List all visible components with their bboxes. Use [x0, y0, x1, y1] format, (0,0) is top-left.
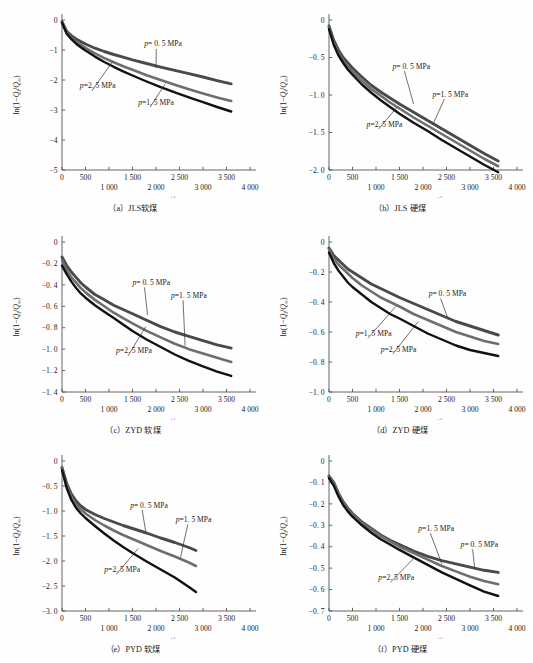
svg-text:−0. 6: −0. 6 — [309, 585, 325, 594]
svg-text:2 000: 2 000 — [147, 624, 164, 633]
svg-text:3 500: 3 500 — [218, 614, 235, 623]
annotation-label-b-0-5: p= 0. 5 MPa — [391, 62, 430, 71]
svg-text:500: 500 — [347, 395, 359, 404]
svg-text:1 000: 1 000 — [100, 405, 117, 414]
y-axis-label: ln(1−Qt/Q∞) — [12, 516, 22, 556]
plot-area-d: 0−0. 2−0. 4−0. 6−0. 8−1. 005001 5002 500… — [267, 224, 533, 420]
svg-text:3 000: 3 000 — [194, 405, 211, 414]
svg-text:2 500: 2 500 — [438, 395, 455, 404]
svg-text:−1. 0: −1. 0 — [309, 388, 325, 397]
svg-text:1 000: 1 000 — [100, 183, 117, 192]
svg-text:−0. 8: −0. 8 — [42, 323, 58, 332]
panel-caption-f: （f）PYD 硬煤 — [267, 642, 533, 654]
annotation-label-e-0-5: p= 0. 5 MPa — [129, 501, 168, 510]
y-axis-ticks-a: 0−1−2−3−4−5 — [49, 16, 65, 175]
svg-text:−0. 6: −0. 6 — [309, 328, 325, 337]
svg-text:3 000: 3 000 — [461, 183, 478, 192]
y-axis-label: ln(1−Qt/Q∞) — [279, 75, 289, 115]
svg-text:3 000: 3 000 — [461, 405, 478, 414]
svg-text:0: 0 — [321, 457, 325, 466]
svg-text:−0. 5: −0. 5 — [309, 53, 325, 62]
svg-text:2 500: 2 500 — [171, 395, 188, 404]
annotation-label-e-1-5: p=1. 5 MPa — [175, 515, 212, 524]
svg-text:500: 500 — [80, 395, 92, 404]
svg-text:4 000: 4 000 — [508, 624, 525, 633]
svg-text:−2: −2 — [49, 76, 57, 85]
plot-area-b: 0−0. 5−1. 0−1. 5−2. 005001 5002 5003 500… — [267, 2, 533, 198]
svg-text:−0. 6: −0. 6 — [42, 302, 58, 311]
axes-d — [329, 236, 523, 392]
svg-text:1 500: 1 500 — [124, 173, 141, 182]
svg-text:−0. 3: −0. 3 — [309, 521, 325, 530]
svg-text:2 500: 2 500 — [171, 614, 188, 623]
panel-caption-a: （a）JLS软煤 — [0, 201, 266, 213]
annotation-label-d-2-5: p=2. 5 MPa — [380, 345, 417, 354]
svg-text:1 500: 1 500 — [124, 395, 141, 404]
svg-text:0: 0 — [60, 395, 64, 404]
svg-text:0: 0 — [54, 238, 58, 247]
svg-text:3 500: 3 500 — [485, 173, 502, 182]
svg-text:−0. 5: −0. 5 — [309, 564, 325, 573]
annotation-leader-e-0 — [142, 510, 146, 531]
svg-text:−3. 0: −3. 0 — [42, 607, 58, 616]
annotation-label-a-1-5: p=1. 5 MPa — [137, 98, 174, 107]
x-axis-ticks-c: 05001 5002 5003 5001 0002 0003 0004 000 — [60, 389, 259, 414]
axes-f — [329, 455, 523, 611]
data-series-b-0 — [329, 26, 498, 161]
svg-text:−1. 5: −1. 5 — [309, 128, 325, 137]
svg-text:2 500: 2 500 — [171, 173, 188, 182]
annotation-leader-b-0 — [404, 71, 413, 104]
annotation-label-d-0-5: p= 0. 5 MPa — [428, 289, 467, 298]
y-axis-label: ln(1−Qt/Q∞) — [12, 75, 22, 115]
svg-text:−4: −4 — [49, 136, 57, 145]
svg-text:1 000: 1 000 — [367, 183, 384, 192]
svg-text:1 500: 1 500 — [124, 614, 141, 623]
svg-text:3 000: 3 000 — [194, 183, 211, 192]
svg-text:−1. 0: −1. 0 — [42, 507, 58, 516]
svg-text:2 000: 2 000 — [414, 405, 431, 414]
svg-text:2 500: 2 500 — [438, 614, 455, 623]
chart-panel-c: 0−0. 2−0. 4−0. 6−0. 8−1. 0−1. 2−1. 40500… — [0, 224, 266, 445]
svg-text:500: 500 — [80, 173, 92, 182]
svg-text:−0. 2: −0. 2 — [309, 268, 325, 277]
annotation-label-c-2-5: p=2. 5 MPa — [115, 346, 152, 355]
svg-text:−0. 8: −0. 8 — [309, 358, 325, 367]
x-axis-label: t/s — [170, 417, 178, 420]
svg-text:−5: −5 — [49, 166, 57, 175]
chart-panel-f: 0−0. 1−0. 2−0. 3−0. 4−0. 5−0. 6−0. 70500… — [267, 443, 533, 663]
svg-text:4 000: 4 000 — [241, 183, 258, 192]
svg-text:−1. 0: −1. 0 — [309, 91, 325, 100]
svg-text:2 000: 2 000 — [414, 624, 431, 633]
x-axis-label: t/s — [437, 417, 445, 420]
panel-caption-d: （d）ZYD 硬煤 — [267, 423, 533, 435]
annotation-label-b-2-5: p=2. 5 MPa — [366, 120, 403, 129]
x-axis-ticks-e: 05001 5002 5003 5001 0002 0003 0004 000 — [60, 608, 259, 633]
panel-caption-b: （b）JLS 硬煤 — [267, 201, 533, 213]
svg-text:0: 0 — [54, 16, 58, 25]
annotation-label-a-2-5: p=2. 5 MPa — [79, 81, 116, 90]
svg-text:500: 500 — [80, 614, 92, 623]
svg-text:2 000: 2 000 — [147, 183, 164, 192]
svg-text:1 500: 1 500 — [391, 173, 408, 182]
svg-text:4 000: 4 000 — [241, 624, 258, 633]
annotation-label-f-0-5: p= 0. 5 MPa — [460, 540, 499, 549]
annotation-leader-e-1 — [180, 525, 187, 558]
x-axis-ticks-d: 05001 5002 5003 5001 0002 0003 0004 000 — [327, 389, 526, 414]
y-axis-label: ln(1−Qt/Q∞) — [12, 297, 22, 337]
svg-text:1 500: 1 500 — [391, 395, 408, 404]
svg-text:−2. 0: −2. 0 — [42, 557, 58, 566]
svg-text:−1. 0: −1. 0 — [42, 345, 58, 354]
svg-text:0: 0 — [327, 173, 331, 182]
annotation-label-b-1-5: p=1. 5 MPa — [431, 90, 468, 99]
svg-text:2 500: 2 500 — [438, 173, 455, 182]
axes-a — [62, 14, 256, 170]
plot-area-a: 0−1−2−3−4−505001 5002 5003 5001 0002 000… — [0, 2, 266, 198]
svg-text:500: 500 — [347, 173, 359, 182]
chart-panel-b: 0−0. 5−1. 0−1. 5−2. 005001 5002 5003 500… — [267, 2, 533, 223]
svg-text:−2. 0: −2. 0 — [309, 166, 325, 175]
x-axis-ticks-f: 05001 5002 5003 5001 0002 0003 0004 000 — [327, 608, 526, 633]
annotation-label-d-1-5: p=1. 5 MPa — [355, 329, 392, 338]
svg-text:1 500: 1 500 — [391, 614, 408, 623]
axes-b — [329, 14, 523, 170]
annotation-leader-c-1 — [183, 300, 185, 346]
